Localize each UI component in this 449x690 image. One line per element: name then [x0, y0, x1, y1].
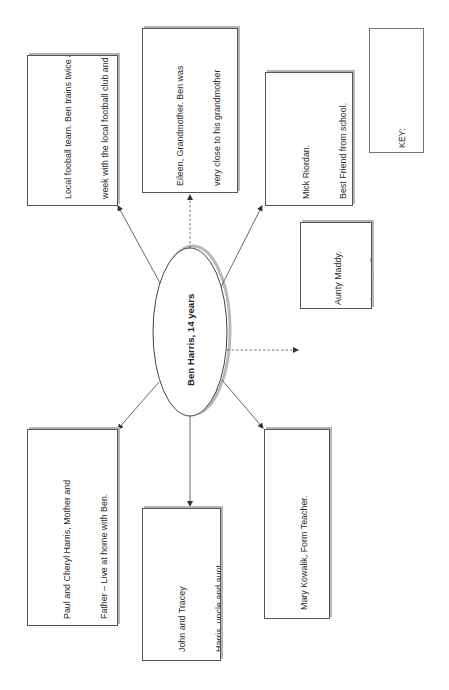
center-label: Ben Harris, 14 years: [185, 294, 196, 386]
node-parents-line: Paul and Cheryl Harris, Mother and: [61, 430, 73, 619]
node-uncle-aunt-line: John and Tracey: [176, 509, 188, 652]
link-teacher-solid: [222, 380, 263, 428]
node-football-line: Local fooball team. Ben trains twice a: [62, 56, 74, 199]
node-aunty: Aunty Maddy. Lives 10 miles away – sees …: [300, 222, 372, 309]
node-aunty-line: Aunty Maddy.: [332, 223, 344, 305]
node-parents: Paul and Cheryl Harris, Mother and Fathe…: [27, 429, 118, 626]
node-grandmother-line: very close to his grandmother: [211, 29, 223, 186]
node-teacher-line: Mary Kowalik, Form Teacher.: [298, 430, 310, 610]
link-parents-solid: [118, 382, 159, 429]
ecomap-diagram: Ben Harris, 14 years Local fooball team.…: [0, 0, 449, 690]
node-aunty-line: Lives 10 miles away –: [368, 223, 372, 305]
node-parents-line: Father – Live at home with Ben.: [98, 430, 110, 619]
link-friend-solid: [221, 206, 262, 287]
node-friend: Mick Riordan. Best Friend from school. S…: [265, 72, 353, 206]
node-uncle-aunt: John and Tracey Harris, uncle and aunt. …: [142, 508, 221, 661]
node-grandmother-line: Eileen, Grandmother. Ben was: [174, 29, 186, 186]
node-football-line: week with the local football club and is: [99, 56, 111, 199]
node-teacher: Mary Kowalik, Form Teacher. Takes a past…: [264, 429, 330, 619]
legend-key-line: KEY:: [397, 29, 408, 148]
node-grandmother: Eileen, Grandmother. Ben was very close …: [142, 28, 238, 193]
node-football: Local fooball team. Ben trains twice a w…: [27, 55, 118, 206]
node-friend-line: Best Friend from school.: [337, 73, 349, 199]
node-uncle-aunt-line: Harris, uncle and aunt.: [213, 509, 221, 652]
node-friend-line: Mick Riordan.: [300, 73, 312, 199]
legend-key: KEY: SOLID LINE= SIGNIFICANT LINK BROKEN…: [369, 28, 424, 153]
link-football-solid: [118, 206, 160, 283]
